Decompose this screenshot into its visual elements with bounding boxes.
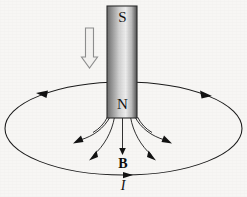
figure-canvas: S N B I xyxy=(0,0,247,197)
field-line-outer-left xyxy=(93,117,108,133)
downward-motion-arrow xyxy=(82,28,98,68)
current-label-I: I xyxy=(120,178,127,193)
motion-arrow-shape xyxy=(82,28,98,68)
field-arrowhead-inner-left xyxy=(89,151,98,161)
field-arrowhead-center xyxy=(119,148,126,155)
field-arrowhead-mid-left xyxy=(73,136,84,144)
magnetic-field-lines xyxy=(73,117,172,161)
field-line-outer-right xyxy=(138,117,153,133)
south-pole-label: S xyxy=(118,9,126,25)
field-label-B: B xyxy=(118,156,127,171)
field-arrowhead-mid-right xyxy=(162,136,173,144)
field-arrowhead-inner-right xyxy=(147,151,156,161)
physics-figure: S N B I xyxy=(0,0,247,197)
bar-magnet: S N xyxy=(107,6,137,118)
north-pole-label: N xyxy=(117,96,128,112)
